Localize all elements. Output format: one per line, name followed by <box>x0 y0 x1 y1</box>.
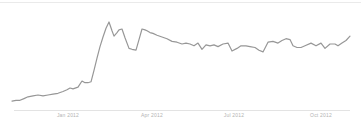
trend-chart: Jan 2012 Apr 2012 Jul 2012 Oct 2012 <box>0 0 361 127</box>
trend-line-svg <box>0 0 361 127</box>
trend-line <box>12 22 350 101</box>
